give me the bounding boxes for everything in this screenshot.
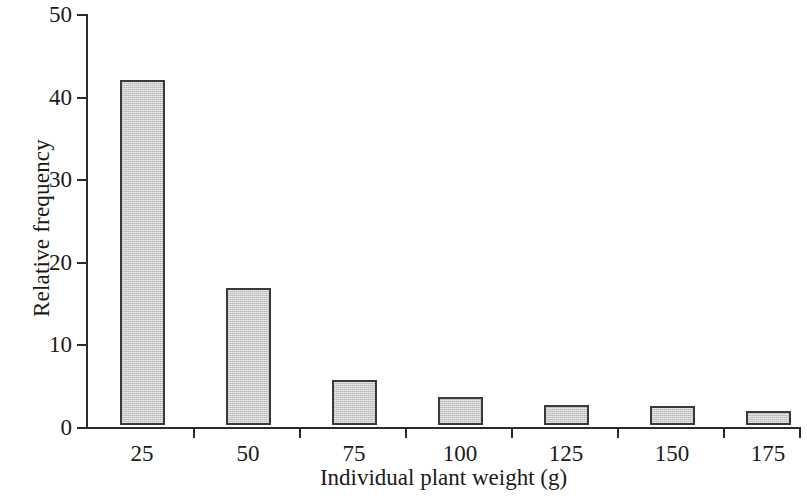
- y-tick-label-40: 40: [49, 85, 72, 108]
- y-tick-40: 40: [77, 97, 86, 99]
- plot-area: 0 10 20 30 40 50 25: [86, 14, 801, 427]
- x-tick-boundary-6: [723, 427, 725, 438]
- y-tick-0: 0: [77, 427, 86, 429]
- y-tick-label-0: 0: [61, 416, 73, 439]
- x-tick-label-25: 25: [131, 442, 154, 465]
- x-tick-label-175: 175: [751, 442, 786, 465]
- x-tick-boundary-4: [511, 427, 513, 438]
- bar-150: [650, 406, 695, 425]
- x-axis-title: Individual plant weight (g): [86, 465, 801, 491]
- y-tick-label-50: 50: [49, 3, 72, 26]
- y-tick-10: 10: [77, 344, 86, 346]
- x-tick-boundary-3: [405, 427, 407, 438]
- y-tick-label-10: 10: [49, 333, 72, 356]
- x-tick-boundary-2: [299, 427, 301, 438]
- y-axis-title: Relative frequency: [29, 83, 55, 373]
- bar-75: [332, 380, 377, 425]
- y-tick-label-20: 20: [49, 250, 72, 273]
- bar-25: [120, 80, 165, 425]
- x-tick-boundary-7: [799, 427, 801, 438]
- bar-175: [746, 411, 791, 425]
- x-tick-boundary-1: [193, 427, 195, 438]
- x-tick-boundary-5: [617, 427, 619, 438]
- y-tick-30: 30: [77, 179, 86, 181]
- y-axis-line: [86, 14, 88, 428]
- x-tick-label-75: 75: [343, 442, 366, 465]
- x-tick-label-150: 150: [655, 442, 690, 465]
- bar-125: [544, 405, 589, 425]
- histogram-chart: Relative frequency 0 10 20 30 40 50: [0, 0, 807, 500]
- bar-100: [438, 397, 483, 425]
- x-tick-label-100: 100: [443, 442, 478, 465]
- y-tick-label-30: 30: [49, 168, 72, 191]
- x-tick-label-125: 125: [549, 442, 584, 465]
- y-tick-50: 50: [77, 14, 86, 16]
- x-tick-label-50: 50: [237, 442, 260, 465]
- y-tick-20: 20: [77, 262, 86, 264]
- bar-50: [226, 288, 271, 425]
